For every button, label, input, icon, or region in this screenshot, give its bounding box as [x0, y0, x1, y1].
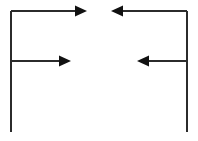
- middle-right-arrow-head: [137, 56, 149, 67]
- top-left-arrow-head: [75, 6, 87, 17]
- middle-left-arrow: [11, 56, 71, 67]
- diagram-svg: [0, 0, 198, 141]
- middle-left-arrow-head: [59, 56, 71, 67]
- top-right-arrow: [111, 6, 187, 17]
- top-left-arrow: [11, 6, 87, 17]
- top-right-arrow-head: [111, 6, 123, 17]
- diagram-canvas: [0, 0, 198, 141]
- middle-right-arrow: [137, 56, 187, 67]
